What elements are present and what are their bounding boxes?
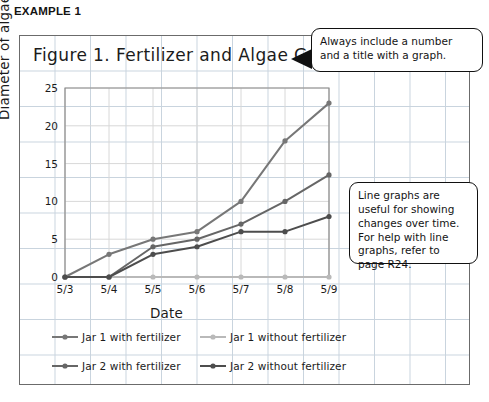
x-axis-tick-label: 5/3 (57, 283, 74, 295)
series-data-point (282, 138, 287, 143)
legend-swatch-icon (52, 332, 78, 342)
series-data-point (194, 244, 199, 249)
x-axis-tick-label: 5/8 (277, 283, 294, 295)
example-label: EXAMPLE 1 (14, 5, 81, 17)
x-axis-tick-label: 5/5 (145, 283, 162, 295)
legend-label: Jar 1 with fertilizer (82, 331, 181, 343)
series-data-point (194, 229, 199, 234)
series-data-point (194, 237, 199, 242)
y-axis-tick-label: 0 (51, 271, 58, 283)
x-axis-tick-label: 5/9 (321, 283, 338, 295)
series-data-point (150, 237, 155, 242)
legend-item: Jar 2 without fertilizer (200, 360, 352, 372)
chart-legend: Jar 1 with fertilizerJar 1 without ferti… (52, 331, 352, 372)
line-chart-plot: 05101520255/35/45/55/65/75/85/9 (19, 78, 349, 308)
y-axis-tick-label: 20 (45, 120, 58, 132)
series-data-point (238, 199, 243, 204)
callout-title-arrow-icon (289, 48, 313, 70)
series-data-point (194, 274, 199, 279)
y-axis-tick-label: 25 (45, 82, 58, 94)
series-data-point (238, 221, 243, 226)
series-data-point (282, 199, 287, 204)
x-axis-tick-label: 5/6 (189, 283, 206, 295)
series-data-point (238, 229, 243, 234)
callout-title-note: Always include a number and a title with… (311, 28, 483, 72)
y-axis-tick-label: 5 (51, 233, 58, 245)
legend-item: Jar 2 with fertilizer (52, 360, 200, 372)
y-axis-tick-label: 10 (45, 195, 58, 207)
legend-label: Jar 1 without fertilizer (230, 331, 346, 343)
y-axis-tick-label: 15 (45, 158, 58, 170)
series-data-point (150, 244, 155, 249)
series-data-point (326, 172, 331, 177)
y-axis-title: Diameter of algae (mm) (0, 0, 12, 120)
x-axis-tick-label: 5/7 (233, 283, 250, 295)
series-data-point (326, 101, 331, 106)
series-data-point (106, 252, 111, 257)
legend-label: Jar 2 without fertilizer (230, 360, 346, 372)
series-data-point (150, 274, 155, 279)
legend-label: Jar 2 with fertilizer (82, 360, 181, 372)
series-data-point (238, 274, 243, 279)
callout-info-note: Line graphs are useful for showing chang… (349, 182, 478, 264)
series-data-point (150, 252, 155, 257)
series-data-point (106, 274, 111, 279)
series-data-point (282, 229, 287, 234)
legend-swatch-icon (200, 332, 226, 342)
series-data-point (326, 274, 331, 279)
series-data-point (62, 274, 67, 279)
legend-item: Jar 1 with fertilizer (52, 331, 200, 343)
legend-swatch-icon (52, 361, 78, 371)
legend-swatch-icon (200, 361, 226, 371)
x-axis-tick-label: 5/4 (101, 283, 118, 295)
series-data-point (282, 274, 287, 279)
series-data-point (326, 214, 331, 219)
legend-item: Jar 1 without fertilizer (200, 331, 352, 343)
